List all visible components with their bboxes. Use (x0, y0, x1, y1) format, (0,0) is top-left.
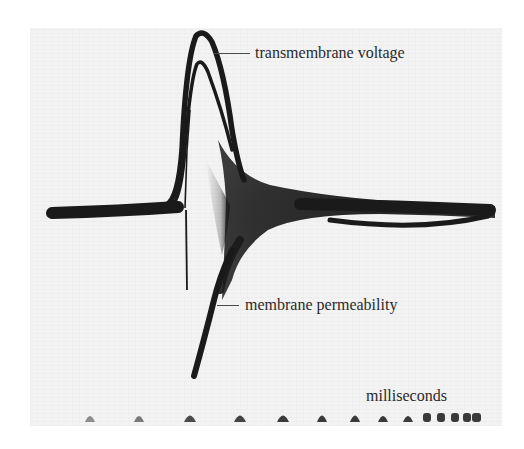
time-marker (423, 413, 431, 422)
time-marker (184, 416, 196, 423)
time-marker (234, 416, 246, 423)
time-marker (463, 413, 471, 422)
time-markers (85, 413, 481, 422)
trace-plot (0, 0, 524, 449)
time-marker (85, 416, 95, 422)
time-marker (317, 416, 327, 423)
voltage-leader-line (214, 53, 250, 54)
voltage-label: transmembrane voltage (255, 45, 405, 61)
baseline-trace-left (52, 207, 178, 213)
permeability-label: membrane permeability (245, 297, 397, 313)
time-marker (451, 413, 459, 422)
time-marker (437, 413, 445, 422)
time-marker (350, 416, 360, 423)
recovery-loop-lower (330, 216, 488, 225)
time-axis-label: milliseconds (366, 388, 447, 404)
recovery-band-upper (300, 204, 490, 210)
time-marker (134, 416, 144, 422)
time-marker (472, 413, 481, 422)
permeability-descend-line (186, 210, 187, 290)
oscilloscope-figure: transmembrane voltage membrane permeabil… (0, 0, 524, 449)
time-marker (378, 416, 388, 422)
time-marker (277, 416, 289, 423)
time-marker (403, 416, 413, 422)
permeability-leader-line (217, 305, 239, 306)
